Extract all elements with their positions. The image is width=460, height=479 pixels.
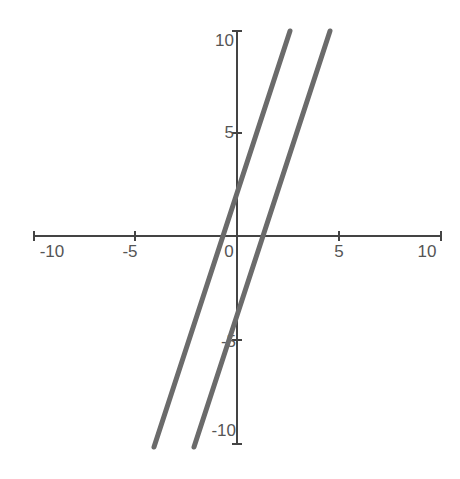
line-series-1 (154, 31, 290, 447)
y-axis (232, 31, 242, 444)
y-tick-label: -10 (211, 421, 236, 440)
x-tick-label: -5 (122, 242, 137, 261)
x-tick-label: -10 (40, 242, 65, 261)
x-tick-label: 5 (334, 242, 343, 261)
x-tick-label: 10 (418, 242, 437, 261)
graph: -10 -5 0 5 10 10 5 -5 -10 (0, 0, 460, 479)
line-series-2 (194, 31, 330, 447)
y-tick-label: 5 (225, 123, 234, 142)
y-tick-label: 10 (215, 31, 234, 50)
x-tick-label: 0 (224, 242, 233, 261)
